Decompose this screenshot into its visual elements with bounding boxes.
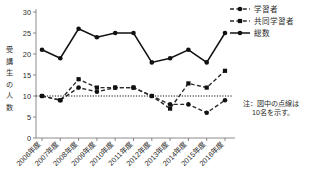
data-point-marker	[223, 98, 228, 103]
data-series-group	[40, 27, 228, 116]
y-tick-label: 20	[23, 50, 31, 59]
data-point-marker	[76, 85, 81, 90]
figure-note-line1: 注：図中の点線は	[243, 99, 299, 108]
y-tick-label: 0	[27, 134, 31, 143]
data-point-marker	[205, 86, 209, 90]
data-point-marker	[58, 98, 62, 102]
y-tick-labels: 051015202530	[23, 8, 31, 143]
data-point-marker	[95, 35, 100, 40]
data-point-marker	[113, 31, 118, 36]
figure-note: 注：図中の点線は 10名を示す。	[243, 99, 299, 117]
y-axis-title-char: 生	[6, 68, 13, 77]
y-axis-title: 受講生の人数	[6, 45, 13, 112]
data-point-marker	[76, 27, 81, 32]
data-point-marker	[168, 56, 173, 61]
y-axis-title-char: 数	[6, 103, 13, 112]
data-point-marker	[40, 94, 44, 98]
chart-container: 051015202530 2006年度2007年度2008年度2009年度201…	[0, 0, 311, 191]
legend-marker	[238, 31, 243, 36]
data-point-marker	[186, 48, 191, 53]
y-tick-label: 25	[23, 29, 31, 38]
legend-label: 学習者	[254, 4, 278, 14]
figure-note-line2: 10名を示す。	[252, 108, 294, 117]
y-tick-label: 10	[23, 92, 31, 101]
legend-item: 共同学習者	[230, 16, 294, 26]
data-point-marker	[95, 90, 100, 95]
legend: 学習者共同学習者総数	[230, 4, 294, 38]
x-tick-labels: 2006年度2007年度2008年度2009年度2010年度2011年度2012…	[15, 139, 227, 168]
y-axis-title-char: の	[6, 80, 13, 89]
legend-marker	[238, 7, 243, 12]
data-point-marker	[95, 86, 99, 90]
data-point-marker	[113, 86, 117, 90]
y-tick-marks	[33, 12, 36, 138]
data-point-marker	[223, 69, 227, 73]
data-point-marker	[204, 111, 209, 116]
legend-label: 共同学習者	[254, 16, 294, 26]
y-axis-title-char: 受	[6, 45, 13, 54]
x-tick-marks	[42, 138, 225, 141]
data-point-marker	[40, 48, 45, 53]
legend-item: 総数	[230, 28, 270, 38]
y-tick-label: 5	[27, 113, 31, 122]
y-axis-title-char: 講	[6, 57, 13, 66]
data-point-marker	[77, 77, 81, 81]
data-point-marker	[186, 102, 191, 107]
data-point-marker	[223, 31, 228, 36]
y-tick-label: 15	[23, 71, 31, 80]
data-point-marker	[168, 107, 172, 111]
legend-item: 学習者	[230, 4, 278, 14]
data-point-marker	[150, 60, 155, 65]
data-point-marker	[150, 94, 154, 98]
data-point-marker	[204, 60, 209, 65]
data-point-marker	[131, 86, 135, 90]
data-point-marker	[131, 31, 136, 36]
series-line-0	[42, 88, 225, 113]
y-tick-label: 30	[23, 8, 31, 17]
legend-marker	[238, 19, 242, 23]
legend-label: 総数	[254, 28, 270, 38]
y-axis-title-char: 人	[6, 91, 13, 100]
data-point-marker	[186, 81, 190, 85]
data-point-marker	[58, 56, 63, 61]
axes	[33, 9, 235, 141]
line-chart: 051015202530 2006年度2007年度2008年度2009年度201…	[0, 0, 311, 191]
